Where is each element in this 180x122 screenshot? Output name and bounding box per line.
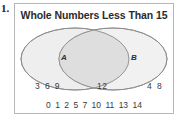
set-b-label: B (131, 53, 137, 62)
universe-member: 10 (92, 100, 101, 110)
set-a-only-members: 3 6 9 (35, 81, 61, 91)
venn-diagram: A B 3 6 9 12 4 8 (15, 26, 173, 92)
universe-member: 11 (105, 100, 114, 110)
universe-member: 13 (119, 100, 128, 110)
universe-member: 0 (46, 100, 51, 110)
diagram-frame: Whole Numbers Less Than 15 (14, 3, 174, 114)
problem-number: 1. (1, 3, 9, 14)
universe-member: 14 (132, 100, 141, 110)
universe-member: 2 (64, 100, 69, 110)
intersection-members: 12 (97, 81, 107, 91)
set-a-label: A (61, 53, 67, 62)
universe-member: 5 (73, 100, 78, 110)
diagram-title: Whole Numbers Less Than 15 (15, 9, 173, 21)
universe-member: 1 (55, 100, 60, 110)
worksheet-problem-screenshot: 1. Whole Numbers Less Than 15 (0, 0, 180, 122)
set-b-only-members: 4 8 (147, 81, 163, 91)
universe-members-row: 0125710111314 (15, 100, 173, 110)
universe-member: 7 (82, 100, 87, 110)
